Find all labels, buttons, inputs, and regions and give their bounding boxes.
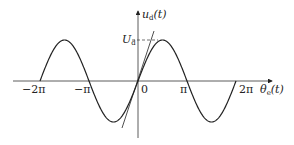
x-axis-label: θe(t) [260,83,284,97]
waveform-diagram: ud(t) Ud 0 −2π −π π 2π θe(t) [0,0,294,145]
diagram-canvas: ud(t) Ud 0 −2π −π π 2π θe(t) [0,0,294,145]
y-axis-label: ud(t) [142,8,167,22]
tick-label-neg-2pi: −2π [22,83,45,96]
tick-label-2pi: 2π [239,83,253,96]
tick-label-neg-pi: −π [74,83,90,96]
origin-label: 0 [141,83,148,96]
tick-label-pi: π [180,83,187,96]
amplitude-label: Ud [122,33,136,47]
